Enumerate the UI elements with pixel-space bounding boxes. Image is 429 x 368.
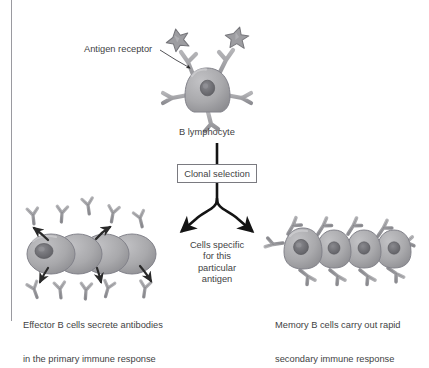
memory-caption-line-2: secondary immune response bbox=[275, 354, 401, 365]
memory-caption: Memory B cells carry out rapid secondary… bbox=[275, 297, 401, 368]
memory-arm-bottom-3 bbox=[360, 266, 375, 284]
antibody-10 bbox=[139, 281, 151, 298]
antigen-star-right bbox=[223, 24, 251, 51]
antibody-3 bbox=[82, 198, 94, 215]
branch-arrow-left bbox=[182, 199, 217, 231]
effector-caption: Effector B cells secrete antibodies in t… bbox=[23, 297, 163, 368]
b-lymphocyte-label: B lymphocyte bbox=[179, 127, 235, 138]
effector-caption-line-1: Effector B cells secrete antibodies bbox=[23, 320, 163, 331]
antigen-receptor-label: Antigen receptor bbox=[84, 44, 152, 55]
b-lymphocyte-group bbox=[160, 24, 251, 131]
cells-specific-line-2: for this bbox=[177, 251, 257, 262]
memory-nucleus-highlight bbox=[296, 242, 302, 247]
cells-specific-line-4: antigen bbox=[177, 274, 257, 285]
antibody-9 bbox=[101, 280, 115, 298]
antibody-4 bbox=[106, 206, 119, 223]
memory-cell-3-nucleus bbox=[358, 242, 370, 254]
memory-caption-line-1: Memory B cells carry out rapid bbox=[275, 320, 401, 331]
memory-arm-left bbox=[265, 238, 283, 251]
clonal-selection-label: Clonal selection bbox=[184, 169, 250, 179]
nucleus-highlight bbox=[203, 83, 208, 89]
receptor-arm-left bbox=[163, 93, 188, 103]
b-lymphocyte-nucleus bbox=[200, 80, 214, 96]
memory-b-cells-group bbox=[265, 218, 414, 285]
effector-cell-1-nucleus bbox=[35, 244, 53, 259]
cells-specific-line-3: particular bbox=[177, 263, 257, 274]
effector-b-cells-group bbox=[27, 198, 156, 299]
branch-arrow-right bbox=[217, 199, 252, 231]
antibody-1 bbox=[27, 208, 39, 224]
effector-caption-line-2: in the primary immune response bbox=[23, 354, 163, 365]
antigen-star-left bbox=[164, 27, 191, 54]
memory-cell-4-nucleus bbox=[388, 242, 400, 254]
antibody-5 bbox=[133, 211, 147, 228]
clonal-selection-box[interactable]: Clonal selection bbox=[177, 164, 257, 183]
cells-specific-note: Cells specific for this particular antig… bbox=[177, 240, 257, 286]
memory-cell-2-nucleus bbox=[328, 242, 340, 254]
cells-specific-line-1: Cells specific bbox=[177, 240, 257, 251]
antibody-2 bbox=[56, 206, 67, 222]
memory-arm-bottom-2 bbox=[330, 266, 345, 284]
memory-cell-1-nucleus bbox=[294, 239, 309, 254]
effector-nucleus-highlight bbox=[38, 246, 44, 251]
